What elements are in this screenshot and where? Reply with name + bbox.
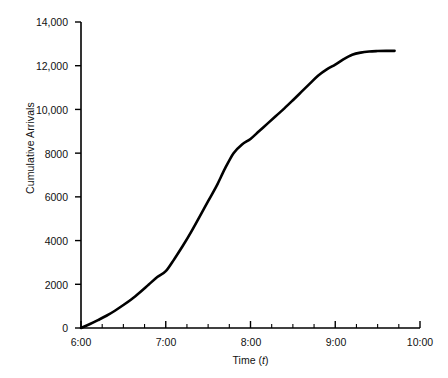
x-tick-label-1000: 10:00 (390, 336, 448, 348)
y-tick-label-14000: 14,000 (8, 16, 68, 28)
x-tick-label-800: 8:00 (221, 336, 281, 348)
chart-figure: Cumulative Arrivals Time (t) 14,000 12,0… (0, 0, 448, 378)
x-axis-title-text: Time (233, 354, 256, 366)
x-tick-label-900: 9:00 (306, 336, 366, 348)
y-tick-label-12000: 12,000 (8, 60, 68, 72)
y-tick-label-6000: 6000 (8, 191, 68, 203)
x-tick-label-600: 6:00 (51, 336, 111, 348)
y-axis-ticks (75, 22, 81, 328)
data-series-line (81, 51, 395, 328)
x-axis-major-ticks (81, 321, 420, 328)
x-axis-title-variable: t (262, 354, 265, 366)
y-tick-label-4000: 4000 (8, 235, 68, 247)
y-tick-label-8000: 8000 (8, 148, 68, 160)
y-tick-label-2000: 2000 (8, 279, 68, 291)
x-tick-label-700: 7:00 (136, 336, 196, 348)
y-tick-label-10000: 10,000 (8, 104, 68, 116)
x-axis-title: Time (t) (81, 354, 420, 366)
y-tick-label-0: 0 (8, 322, 68, 334)
axis-lines (81, 22, 420, 328)
